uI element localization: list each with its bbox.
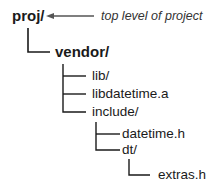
annotation-top-level: top level of project bbox=[101, 9, 202, 23]
tree-node-include: include/ bbox=[92, 104, 139, 120]
tree-root-proj: proj/ bbox=[12, 8, 45, 24]
tree-node-libdatetime: libdatetime.a bbox=[92, 86, 169, 102]
tree-node-datetime-h: datetime.h bbox=[122, 126, 185, 142]
left-arrow-icon bbox=[46, 13, 94, 19]
tree-node-dt: dt/ bbox=[122, 142, 137, 158]
tree-node-extras-h: extras.h bbox=[158, 167, 206, 183]
tree-node-lib: lib/ bbox=[92, 68, 109, 84]
tree-node-vendor: vendor/ bbox=[55, 44, 109, 60]
